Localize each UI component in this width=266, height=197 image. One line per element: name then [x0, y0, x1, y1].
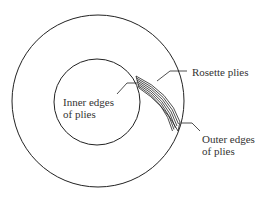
diagram-canvas: Rosette plies Inner edges of plies Outer… [0, 0, 266, 197]
label-inner-edges-line1: Inner edges [63, 96, 114, 108]
rosette-plies-diagram [0, 0, 266, 197]
leader-lines [117, 71, 200, 131]
rosette-leader [157, 71, 187, 81]
label-rosette-plies: Rosette plies [192, 66, 249, 78]
label-outer-edges-line1: Outer edges [202, 133, 255, 145]
outer-edges-leader [181, 123, 200, 131]
label-inner-edges: Inner edges of plies [63, 96, 114, 120]
ply-arcs [136, 76, 180, 131]
label-outer-edges: Outer edges of plies [202, 133, 255, 157]
label-inner-edges-line2: of plies [63, 108, 114, 120]
label-outer-edges-line2: of plies [202, 145, 255, 157]
inner-edges-leader [117, 83, 137, 94]
